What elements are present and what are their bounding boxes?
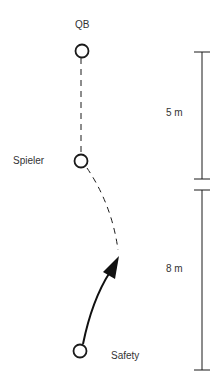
arrowhead-icon [103, 256, 119, 279]
spieler-label: Spieler [13, 155, 44, 167]
distance-5m-label: 5 m [166, 107, 183, 119]
spieler-player-marker [75, 155, 88, 168]
safety-player-marker [74, 345, 87, 358]
safety-solid-route [83, 272, 110, 344]
distance-8m-label: 8 m [166, 263, 183, 275]
diagram-canvas [0, 0, 222, 389]
play-diagram: QB Spieler Safety 5 m 8 m [0, 0, 222, 389]
qb-label: QB [75, 19, 89, 31]
safety-label: Safety [111, 350, 139, 362]
spieler-dashed-route [87, 168, 118, 250]
qb-player-marker [76, 45, 89, 58]
